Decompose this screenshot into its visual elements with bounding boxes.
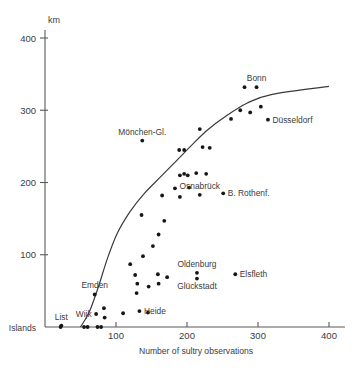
data-point — [96, 325, 100, 329]
data-point — [157, 282, 161, 286]
data-point — [229, 117, 233, 121]
data-point — [147, 285, 151, 289]
y-axis-unit-label: km — [48, 15, 60, 25]
data-point — [141, 254, 145, 258]
data-point — [182, 172, 186, 176]
data-point — [135, 291, 139, 295]
data-point — [173, 186, 177, 190]
y-tick-label-200: 200 — [20, 177, 36, 188]
data-point — [151, 244, 155, 248]
data-point — [103, 316, 107, 320]
data-point — [233, 272, 237, 276]
data-points — [59, 85, 270, 329]
data-point — [93, 293, 97, 297]
x-axis-title: Number of sultry observations — [139, 346, 253, 356]
data-point — [198, 127, 202, 131]
point-label-elsfleth: Elsfleth — [240, 269, 268, 279]
chart-page: WijkEmdenListHeideOldenburgGlückstadtEls… — [0, 0, 361, 381]
point-label-list: List — [55, 312, 69, 322]
data-point — [195, 271, 199, 275]
data-point — [157, 233, 161, 237]
scatter-plot: WijkEmdenListHeideOldenburgGlückstadtEls… — [0, 0, 361, 381]
data-point — [128, 262, 132, 266]
data-point — [186, 173, 190, 177]
data-point — [248, 111, 252, 115]
data-point — [162, 219, 166, 223]
x-tick-label-300: 300 — [250, 330, 266, 341]
y-tick-label-100: 100 — [20, 249, 36, 260]
data-point — [178, 173, 182, 177]
data-point — [243, 85, 247, 89]
point-label-d-sseldorf: Düsseldorf — [272, 115, 313, 125]
data-point — [201, 145, 205, 149]
x-tick-label-200: 200 — [179, 330, 195, 341]
point-labels: WijkEmdenListHeideOldenburgGlückstadtEls… — [55, 73, 313, 321]
data-point — [102, 306, 106, 310]
point-label-bonn: Bonn — [247, 73, 267, 83]
axis-text: 100200300400100200300400IslandskmNumber … — [9, 15, 337, 356]
data-point — [140, 139, 144, 143]
data-point — [255, 85, 259, 89]
point-label-gl-ckstadt: Glückstadt — [177, 281, 217, 291]
data-point — [82, 325, 86, 329]
data-point — [208, 146, 212, 150]
data-point — [133, 273, 137, 277]
y-origin-label-islands: Islands — [9, 323, 36, 333]
point-label-heide: Heide — [144, 306, 166, 316]
data-point — [178, 195, 182, 199]
data-point — [121, 311, 125, 315]
point-label-b-rothenf: B. Rothenf. — [228, 188, 270, 198]
data-point — [204, 172, 208, 176]
data-point — [99, 325, 103, 329]
data-point — [198, 193, 202, 197]
data-point — [94, 312, 98, 316]
point-label-emden: Emden — [81, 280, 108, 290]
data-point — [266, 118, 270, 122]
point-label-osnabr-ck: Osnabrück — [180, 181, 221, 191]
data-point — [165, 275, 169, 279]
data-point — [135, 282, 139, 286]
point-label-oldenburg: Oldenburg — [177, 259, 216, 269]
point-label-wijk: Wijk — [76, 309, 93, 319]
data-point — [138, 309, 142, 313]
y-tick-label-400: 400 — [20, 33, 36, 44]
data-point — [160, 194, 164, 198]
data-point — [221, 191, 225, 195]
data-point — [59, 324, 63, 328]
x-tick-label-100: 100 — [108, 330, 124, 341]
data-point — [86, 325, 90, 329]
data-point — [140, 213, 144, 217]
point-label-m-nchen-gl: Mönchen-Gl. — [118, 127, 166, 137]
x-tick-label-400: 400 — [321, 330, 337, 341]
y-tick-label-300: 300 — [20, 105, 36, 116]
data-point — [177, 148, 181, 152]
data-point — [238, 108, 242, 112]
data-point — [194, 171, 198, 175]
data-point — [259, 105, 263, 109]
data-point — [156, 272, 160, 276]
data-point — [182, 148, 186, 152]
